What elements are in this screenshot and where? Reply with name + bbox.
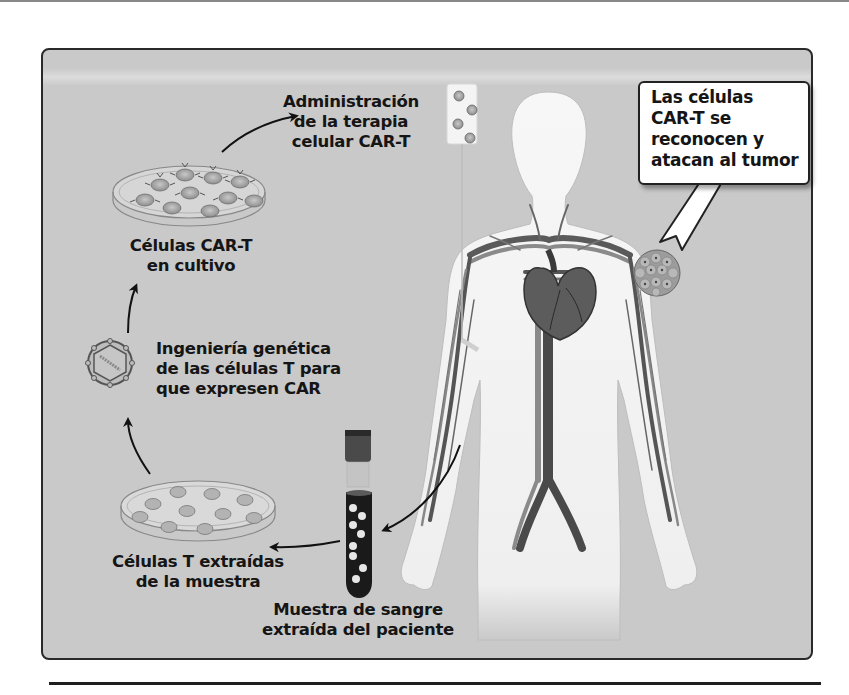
bottom-divider (49, 682, 821, 685)
label-genetic-engineering: Ingeniería genética de las células T par… (156, 339, 346, 399)
petri-dish-car-t-icon (113, 163, 265, 226)
label-administration: Administración de la terapia celular CAR… (252, 92, 450, 152)
arrow-tube-to-dish (272, 541, 340, 547)
viral-vector-icon (86, 339, 135, 388)
label-blood-sample: Muestra de sangre extraída del paciente (258, 600, 458, 640)
tumor-icon (634, 250, 680, 296)
arrow-dish-to-vector (128, 420, 150, 474)
callout-pointer-icon (660, 182, 722, 250)
callout-text: Las células CAR-T se reconocen y atacan … (651, 87, 808, 171)
callout-tumor-attack: Las células CAR-T se reconocen y atacan … (638, 81, 810, 185)
label-t-cells-extracted: Células T extraídas de la muestra (108, 552, 288, 592)
blood-tube-icon (345, 430, 372, 598)
petri-dish-t-cells-icon (121, 481, 275, 541)
label-car-t-culture: Células CAR-T en cultivo (116, 236, 266, 276)
arrow-vector-to-culture (128, 286, 136, 333)
